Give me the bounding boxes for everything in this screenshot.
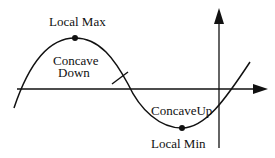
inflection-point-tick <box>112 72 128 84</box>
local-min-point <box>179 125 185 131</box>
x-axis-arrow-icon <box>253 84 268 94</box>
concave-down-label-line2: Down <box>58 66 90 80</box>
function-curve <box>14 38 250 128</box>
concave-up-label: ConcaveUp <box>151 104 212 118</box>
y-axis-arrow-icon <box>214 8 224 24</box>
local-max-label: Local Max <box>49 15 106 29</box>
local-min-label: Local Min <box>151 137 206 151</box>
graph-canvas <box>0 0 275 158</box>
local-max-point <box>72 35 78 41</box>
concavity-diagram: Local Max Concave Down ConcaveUp Local M… <box>0 0 275 158</box>
